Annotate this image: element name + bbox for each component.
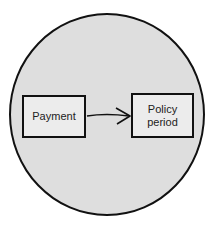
payment-node: Payment [22,95,86,138]
arrow-icon [86,104,132,130]
policy-period-label-line2: period [147,116,178,129]
payment-label: Payment [32,110,75,123]
policy-period-node: Policy period [131,93,194,138]
policy-period-label-line1: Policy [147,103,178,116]
